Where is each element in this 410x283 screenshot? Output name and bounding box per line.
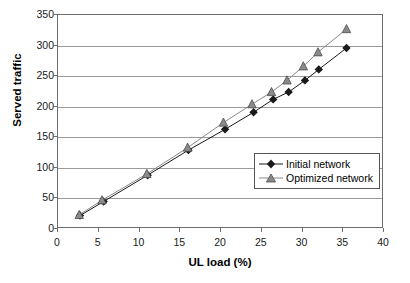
x-tick-mark [383, 228, 384, 232]
x-tick-mark [261, 228, 262, 232]
x-tick-mark [179, 228, 180, 232]
y-tick-label: 0 [20, 223, 54, 233]
chart-container: 050100150200250300350 Initial network Op… [0, 0, 410, 283]
plot-area: Initial network Optimized network [57, 14, 383, 228]
x-tick-label: 40 [367, 237, 399, 248]
x-tick-label: 30 [286, 237, 318, 248]
legend-item-optimized-network: Optimized network [258, 171, 373, 185]
x-tick-label: 25 [245, 237, 277, 248]
x-axis-ticks: 0510152025303540 [57, 228, 383, 254]
x-tick-mark [98, 228, 99, 232]
triangle-marker-icon [258, 172, 284, 184]
y-tick-label: 350 [20, 9, 54, 19]
x-tick-label: 35 [326, 237, 358, 248]
y-tick-label: 300 [20, 40, 54, 50]
data-point-triangle [183, 143, 191, 151]
data-point-triangle [314, 48, 322, 56]
series-2 [75, 24, 351, 218]
series-line [80, 48, 347, 216]
x-tick-label: 20 [204, 237, 236, 248]
data-point-diamond [249, 108, 257, 116]
data-point-triangle [219, 118, 227, 126]
y-tick-label: 100 [20, 162, 54, 172]
data-point-diamond [269, 95, 277, 103]
x-tick-mark [220, 228, 221, 232]
diamond-marker-icon [258, 158, 284, 170]
data-point-triangle [283, 76, 291, 84]
x-tick-label: 0 [41, 237, 73, 248]
legend-label-optimized-network: Optimized network [284, 172, 373, 184]
x-tick-label: 15 [163, 237, 195, 248]
x-tick-mark [342, 228, 343, 232]
y-tick-label: 200 [20, 101, 54, 111]
y-axis-title: Served traffic [11, 25, 23, 155]
x-tick-label: 5 [82, 237, 114, 248]
legend-item-initial-network: Initial network [258, 157, 373, 171]
y-tick-label: 250 [20, 70, 54, 80]
x-tick-mark [302, 228, 303, 232]
legend-label-initial-network: Initial network [284, 158, 350, 170]
data-point-triangle [342, 24, 350, 32]
x-tick-mark [139, 228, 140, 232]
x-tick-label: 10 [123, 237, 155, 248]
y-tick-label: 50 [20, 192, 54, 202]
data-point-triangle [267, 87, 275, 95]
data-point-triangle [248, 100, 256, 108]
data-point-diamond [284, 88, 292, 96]
chart-legend: Initial network Optimized network [254, 153, 380, 189]
data-point-diamond [342, 44, 350, 52]
series-1 [76, 44, 351, 220]
y-tick-label: 150 [20, 131, 54, 141]
x-axis-title: UL load (%) [57, 256, 383, 268]
series-layer [58, 15, 384, 229]
x-tick-mark [57, 228, 58, 232]
